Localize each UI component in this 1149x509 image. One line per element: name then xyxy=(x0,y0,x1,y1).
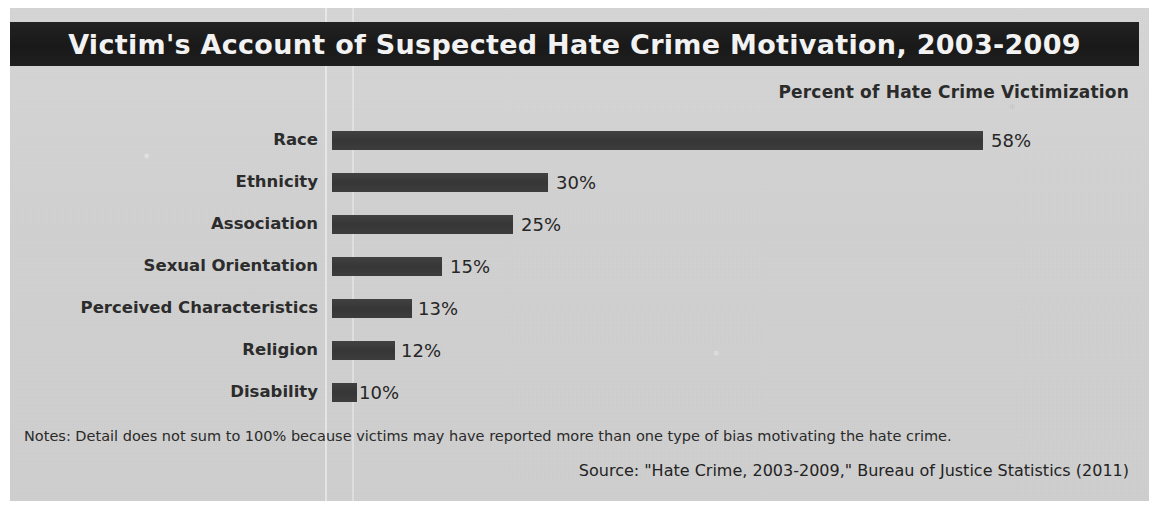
bar-value-race: 58% xyxy=(991,125,1031,155)
chart-source: Source: "Hate Crime, 2003-2009," Bureau … xyxy=(579,461,1129,480)
bar-row-race: Race 58% xyxy=(10,125,1139,155)
bar-label-race: Race xyxy=(273,125,318,155)
bar-sexual-orientation xyxy=(332,257,442,276)
bar-label-religion: Religion xyxy=(242,335,318,365)
bar-row-religion: Religion 12% xyxy=(10,335,1139,365)
bar-association xyxy=(332,215,513,234)
bar-religion xyxy=(332,341,395,360)
page-title: Victim's Account of Suspected Hate Crime… xyxy=(68,29,1081,60)
bar-row-perceived-characteristics: Perceived Characteristics 13% xyxy=(10,293,1139,323)
bar-value-sexual-orientation: 15% xyxy=(450,251,490,281)
bar-perceived-characteristics xyxy=(332,299,412,318)
bar-row-disability: Disability 10% xyxy=(10,377,1139,407)
chart-title-band: Victim's Account of Suspected Hate Crime… xyxy=(10,22,1139,66)
bar-row-association: Association 25% xyxy=(10,209,1139,239)
bar-label-perceived-characteristics: Perceived Characteristics xyxy=(81,293,318,323)
bar-ethnicity xyxy=(332,173,548,192)
bar-chart-plot-area: Race 58% Ethnicity 30% Association 25% S… xyxy=(10,125,1139,415)
chart-notes: Notes: Detail does not sum to 100% becau… xyxy=(24,428,952,444)
bar-value-association: 25% xyxy=(521,209,561,239)
bar-label-disability: Disability xyxy=(230,377,318,407)
bar-value-perceived-characteristics: 13% xyxy=(418,293,458,323)
bar-label-ethnicity: Ethnicity xyxy=(236,167,318,197)
bar-value-religion: 12% xyxy=(401,335,441,365)
bar-label-sexual-orientation: Sexual Orientation xyxy=(144,251,318,281)
chart-subtitle: Percent of Hate Crime Victimization xyxy=(778,82,1129,102)
chart-page: Victim's Account of Suspected Hate Crime… xyxy=(0,0,1149,509)
bar-row-sexual-orientation: Sexual Orientation 15% xyxy=(10,251,1139,281)
bar-value-ethnicity: 30% xyxy=(556,167,596,197)
bar-disability xyxy=(332,383,357,402)
bar-race xyxy=(332,131,983,150)
bar-row-ethnicity: Ethnicity 30% xyxy=(10,167,1139,197)
bar-label-association: Association xyxy=(211,209,318,239)
bar-value-disability: 10% xyxy=(359,377,399,407)
